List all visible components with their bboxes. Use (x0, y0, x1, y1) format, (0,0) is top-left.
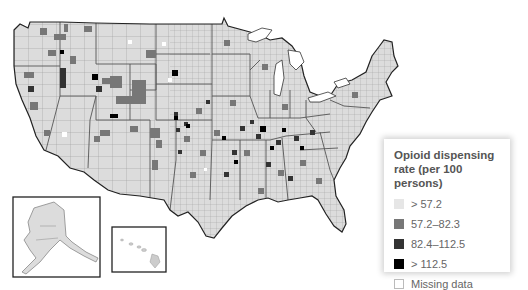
hawaii-inset (112, 227, 166, 272)
alaska-inset (13, 197, 100, 277)
legend-item-medium: 57.2–82.3 (394, 214, 510, 234)
legend-title-line2: rate (per 100 persons) (394, 162, 510, 190)
legend-label: > 57.2 (411, 198, 442, 210)
swatch-medium (394, 219, 404, 229)
legend-label: Missing data (411, 278, 473, 290)
legend-label: > 112.5 (411, 258, 447, 270)
legend-title-line1: Opioid dispensing (394, 148, 510, 162)
legend-item-high: 82.4–112.5 (394, 234, 510, 254)
legend-label: 57.2–82.3 (411, 218, 460, 230)
swatch-high (394, 239, 404, 249)
legend: Opioid dispensing rate (per 100 persons)… (384, 139, 510, 272)
swatch-missing (394, 279, 404, 289)
legend-label: 82.4–112.5 (411, 238, 465, 250)
swatch-very-high (394, 259, 404, 269)
legend-item-very-high: > 112.5 (394, 254, 510, 274)
legend-item-missing: Missing data (394, 274, 510, 290)
swatch-low (394, 199, 404, 209)
legend-item-low: > 57.2 (394, 194, 510, 214)
